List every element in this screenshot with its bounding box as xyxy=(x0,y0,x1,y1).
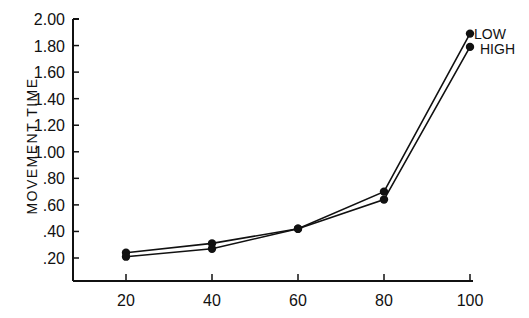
y-tick-label: .80 xyxy=(43,170,65,187)
data-point-high xyxy=(466,43,474,51)
x-axis-ticks: 20406080100 xyxy=(117,274,483,309)
data-point-low xyxy=(466,29,474,37)
x-tick-label: 40 xyxy=(203,292,221,309)
y-tick-label: 1.80 xyxy=(34,38,65,55)
data-series xyxy=(122,29,474,260)
y-tick-label: .40 xyxy=(43,223,65,240)
y-tick-label: 2.00 xyxy=(34,11,65,28)
legend-label-low: LOW xyxy=(474,26,507,42)
y-tick-label: .60 xyxy=(43,197,65,214)
data-point-high xyxy=(294,225,302,233)
x-tick-label: 20 xyxy=(117,292,135,309)
x-tick-label: 80 xyxy=(375,292,393,309)
series-line-low xyxy=(126,34,470,253)
data-point-high xyxy=(208,245,216,253)
y-axis-title: MOVEMENT TIME xyxy=(24,77,40,214)
x-tick-label: 60 xyxy=(289,292,307,309)
data-point-high xyxy=(122,252,130,260)
axes xyxy=(73,19,473,281)
legend-label-high: HIGH xyxy=(480,41,515,57)
x-tick-label: 100 xyxy=(457,292,484,309)
line-chart: .20.40.60.801.001.201.401.601.802.00 204… xyxy=(0,0,529,318)
y-tick-label: .20 xyxy=(43,250,65,267)
data-point-high xyxy=(380,195,388,203)
